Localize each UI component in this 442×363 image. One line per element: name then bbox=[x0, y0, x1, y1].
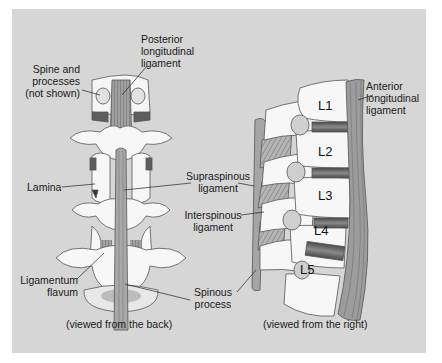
label-spinous-process: Spinous process bbox=[189, 286, 237, 310]
vertebra-label-l3: L3 bbox=[318, 188, 332, 203]
vertebra-label-l4: L4 bbox=[314, 223, 328, 238]
vertebra-label-l5: L5 bbox=[300, 262, 314, 277]
label-posterior-longitudinal-ligament: Posterior longitudinal ligament bbox=[141, 33, 194, 69]
label-lamina: Lamina bbox=[27, 181, 61, 193]
label-supraspinous-ligament: Supraspinous ligament bbox=[178, 170, 258, 194]
label-ligamentum-flavum: Ligamentum flavum bbox=[18, 274, 78, 298]
caption-back-view: (viewed from the back) bbox=[66, 318, 172, 330]
label-spine-and-processes: Spine and processes (not shown) bbox=[24, 63, 80, 99]
label-anterior-longitudinal-ligament: Anterior longitudinal ligament bbox=[366, 80, 419, 116]
right-view-spine: L1 L2 L3 L4 L5 bbox=[252, 79, 368, 320]
vertebra-label-l1: L1 bbox=[318, 98, 332, 113]
vertebra-label-l2: L2 bbox=[318, 144, 332, 159]
caption-right-view: (viewed from the right) bbox=[263, 318, 367, 330]
label-interspinous-ligament: Interspinous ligament bbox=[180, 209, 246, 233]
